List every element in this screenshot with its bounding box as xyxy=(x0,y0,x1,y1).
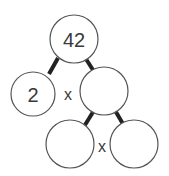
node-left-value: 2 xyxy=(27,84,38,106)
node-root-value: 42 xyxy=(63,29,85,51)
edge-root-left xyxy=(49,58,58,74)
node-bottom-right[interactable] xyxy=(110,120,158,168)
factor-tree-diagram: 42 2 x x xyxy=(0,0,169,176)
node-root: 42 xyxy=(50,15,98,63)
edge-right-bottom-left xyxy=(85,112,93,125)
multiply-operator: x xyxy=(64,86,72,103)
node-left: 2 xyxy=(11,72,55,116)
edge-root-right xyxy=(86,59,93,70)
multiply-operator: x xyxy=(98,138,106,155)
edge-right-bottom-right xyxy=(116,112,123,124)
node-right[interactable] xyxy=(80,67,128,115)
node-bottom-left[interactable] xyxy=(46,120,94,168)
